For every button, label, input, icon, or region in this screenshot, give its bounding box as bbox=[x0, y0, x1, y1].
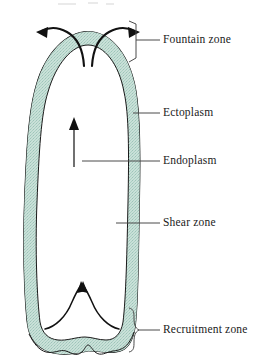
figure-canvas bbox=[0, 0, 267, 361]
scan-artifact bbox=[88, 2, 98, 4]
scan-artifact bbox=[106, 3, 114, 5]
fountain-left-arrowhead bbox=[36, 27, 48, 38]
fountain-zone-bracket bbox=[129, 21, 136, 62]
label-endoplasm: Endoplasm bbox=[163, 154, 217, 166]
label-fountain-zone: Fountain zone bbox=[163, 33, 231, 45]
label-recruitment-zone: Recruitment zone bbox=[163, 323, 248, 335]
fountain-right-arrowhead bbox=[128, 27, 140, 38]
label-ectoplasm: Ectoplasm bbox=[163, 106, 213, 118]
label-shear-zone: Shear zone bbox=[163, 216, 216, 228]
scan-artifact bbox=[58, 3, 76, 5]
endoplasm-region bbox=[36, 45, 128, 340]
